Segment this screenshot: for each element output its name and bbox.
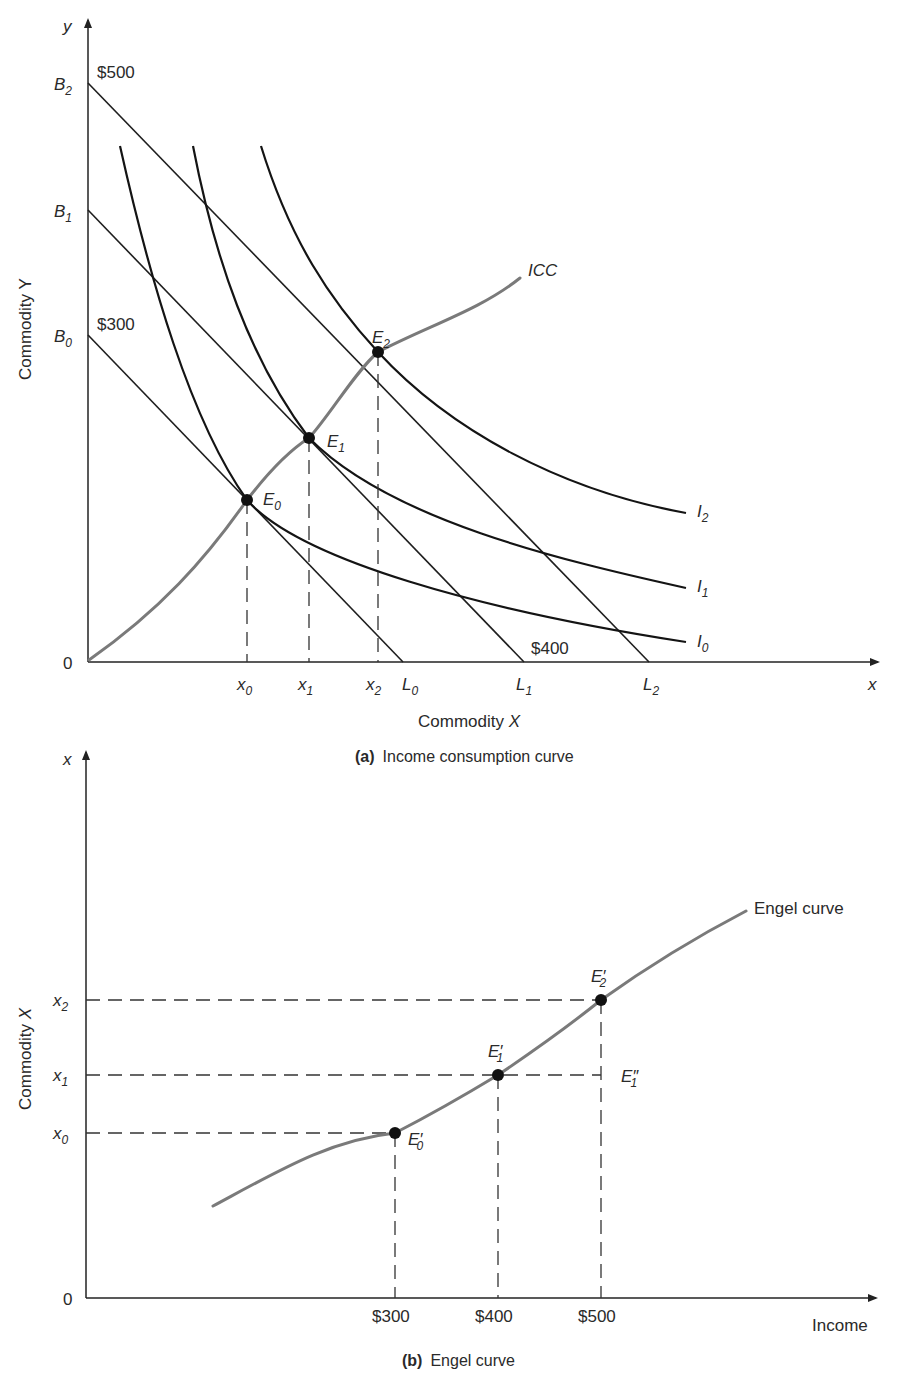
y-axis-symbol-b: x [62,750,72,769]
indifference-curve-i2 [261,146,686,513]
label-e0: E0 [263,490,281,513]
income-label-500: $500 [97,63,135,82]
label-e2-prime: E′2 [591,967,607,990]
point-e2-prime [595,994,607,1006]
label-e1-prime: E′1 [488,1042,503,1065]
x-axis-title: Commodity X [418,712,521,731]
equilibrium-point-e1 [303,432,315,444]
tick-x0: x0 [236,675,253,698]
intercept-b1: B1 [54,202,72,225]
tick-400: $400 [475,1307,513,1326]
label-icc: ICC [528,261,558,280]
label-i2: I2 [697,502,709,525]
income-consumption-curve [89,278,520,660]
intercept-b0: B0 [54,327,72,350]
tick-x1: x1 [297,675,313,698]
tick-500: $500 [578,1307,616,1326]
caption-a: (a)Income consumption curve [355,748,574,765]
intercept-l0: L0 [402,675,418,698]
budget-line-b2-l2 [88,83,649,662]
intercept-b2: B2 [54,75,72,98]
label-i0: I0 [697,632,709,655]
tick-300: $300 [372,1307,410,1326]
origin-label: 0 [63,654,72,673]
intercept-l1: L1 [516,675,532,698]
equilibrium-point-e2 [372,346,384,358]
label-e1-double-prime: E″1 [621,1067,639,1090]
panel-a-income-consumption: y x 0 B2 B1 B0 $500 $300 $400 x0 x1 x2 L… [16,17,878,765]
income-label-400: $400 [531,639,569,658]
label-engel-curve: Engel curve [754,899,844,918]
panel-b-engel-curve: x 0 x2 x1 x0 $300 $400 $500 Income E′0 E… [16,750,876,1369]
caption-b: (b)Engel curve [402,1352,515,1369]
label-e0-prime: E′0 [408,1130,424,1153]
tick-b-x1: x1 [52,1066,68,1089]
figure-canvas: y x 0 B2 B1 B0 $500 $300 $400 x0 x1 x2 L… [0,0,902,1394]
y-axis-title-b: Commodity X [16,1007,35,1110]
tick-b-x2: x2 [52,991,69,1014]
tick-x2: x2 [365,675,382,698]
label-e1: E1 [327,432,345,455]
x-axis-title-b: Income [812,1316,868,1335]
point-e1-prime [492,1069,504,1081]
engel-curve [213,911,746,1206]
label-i1: I1 [697,577,708,600]
intercept-l2: L2 [643,675,659,698]
x-axis-symbol: x [867,675,877,694]
origin-label-b: 0 [63,1290,72,1309]
y-axis-title: Commodity Y [16,278,35,380]
income-label-300: $300 [97,315,135,334]
y-axis-symbol: y [62,17,73,36]
point-e0-prime [389,1127,401,1139]
equilibrium-point-e0 [241,494,253,506]
tick-b-x0: x0 [52,1124,69,1147]
